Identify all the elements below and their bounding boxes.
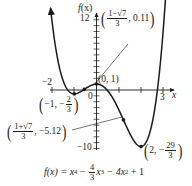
- annotation-right-min: ( 2, − 293 ): [143, 141, 183, 160]
- fraction: 23: [66, 95, 72, 114]
- value: 2, −: [149, 146, 164, 156]
- origin-label: 0: [88, 92, 93, 102]
- point-inflection-bottom: [122, 118, 126, 122]
- paren-close: ): [74, 95, 78, 114]
- x-tick-label-3: 3: [160, 93, 165, 103]
- fraction: 1−√73: [107, 9, 127, 28]
- paren-open: (: [101, 9, 105, 28]
- value: , −5.12: [34, 127, 61, 137]
- annotation-top-point: ( 1−√73 , 0.11 ): [100, 9, 156, 28]
- value: , 0.11: [128, 14, 149, 24]
- denominator: 3: [21, 132, 25, 141]
- denominator: 3: [168, 151, 172, 160]
- paren-close: ): [178, 141, 182, 160]
- y-tick-label-neg10: −10: [77, 143, 92, 153]
- equation-lhs: f(x) = x: [44, 167, 74, 177]
- paren-close: ): [150, 9, 154, 28]
- value: −1, −: [44, 100, 64, 110]
- paren-open: (: [144, 141, 148, 160]
- denominator: 3: [90, 173, 94, 182]
- x-tick-label-neg2: −2: [42, 78, 52, 88]
- y-axis-label-x: (x): [81, 2, 93, 13]
- function-equation: f(x) = x4 − 43 x3 − 4x2 + 1: [44, 163, 144, 182]
- equation-tail: + 1: [128, 167, 144, 177]
- point-inflection-top: [83, 88, 87, 92]
- fraction: 1+√73: [13, 122, 33, 141]
- y-tick-label-12: 12: [80, 14, 90, 24]
- annotation-bottom-inflection: ( 1+√73 , −5.12 ): [6, 122, 67, 141]
- fraction: 293: [165, 141, 176, 160]
- paren-open: (: [7, 122, 11, 141]
- x-axis-label: x: [172, 91, 176, 101]
- y-axis-label: f(x): [78, 3, 92, 13]
- paren-close: ): [62, 122, 66, 141]
- equation-fraction: 43: [89, 163, 95, 182]
- equation-mid: − 4x: [104, 167, 125, 177]
- paren-open: (: [39, 95, 43, 114]
- annotation-origin-point: (0, 1): [98, 75, 119, 85]
- denominator: 3: [115, 19, 119, 28]
- annotation-left-min: ( −1, − 23 ): [38, 95, 79, 114]
- equation-minus: −: [77, 167, 88, 177]
- denominator: 3: [67, 105, 71, 114]
